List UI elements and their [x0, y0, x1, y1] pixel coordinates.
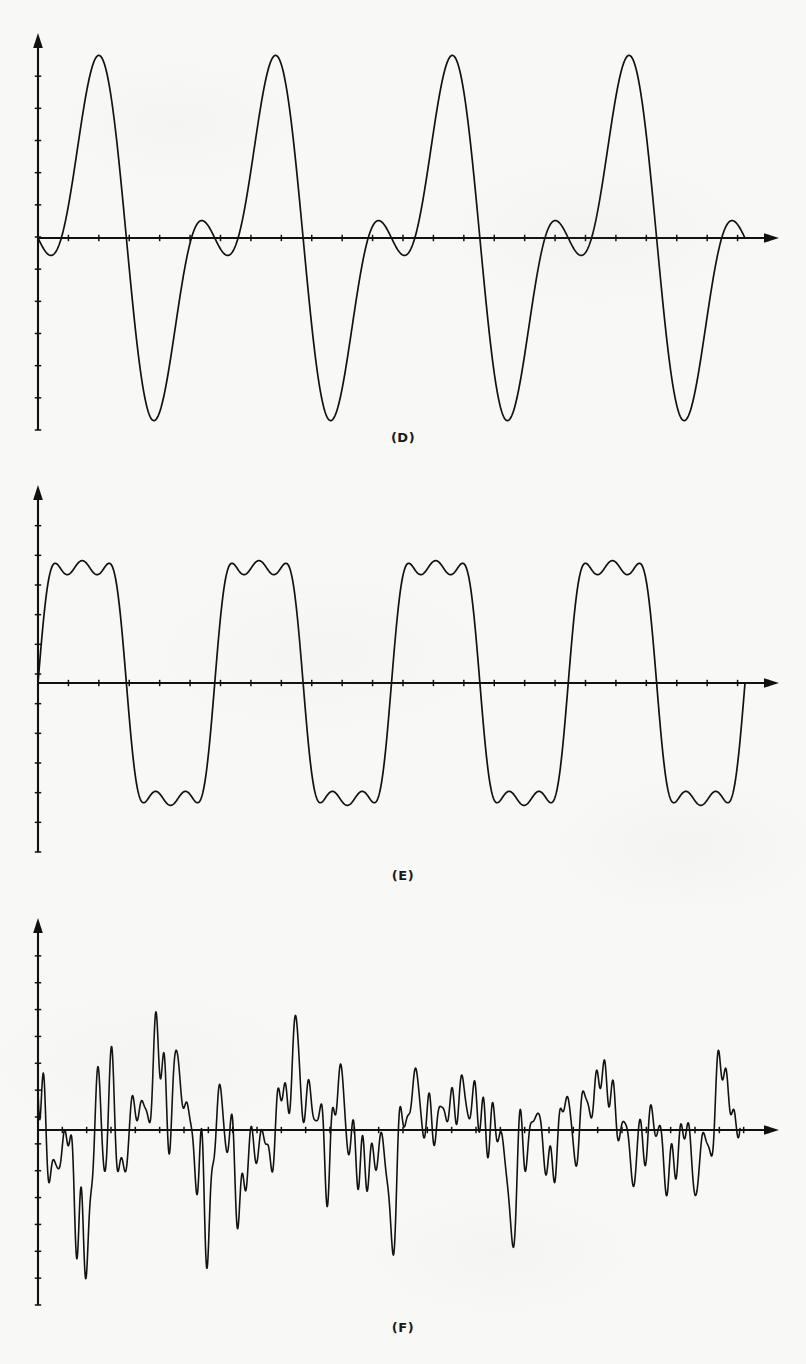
- y-axis-arrowhead-e: [33, 485, 43, 500]
- panel-e-plot: [0, 470, 806, 880]
- panel-d-plot: [0, 0, 806, 440]
- panel-d: (D): [0, 0, 806, 470]
- panel-f: (F): [0, 905, 806, 1364]
- x-axis-arrowhead-e: [764, 678, 779, 688]
- panel-e-axes: [33, 485, 779, 852]
- x-axis-arrowhead-d: [764, 233, 779, 243]
- panel-e: (E): [0, 470, 806, 915]
- y-axis-arrowhead-d: [33, 33, 43, 48]
- panel-label-e: (E): [0, 868, 806, 883]
- axis-ticks-e: [35, 496, 768, 852]
- panel-f-axes: [33, 918, 779, 1305]
- panel-f-plot: [0, 905, 806, 1330]
- y-axis-arrowhead-f: [33, 918, 43, 933]
- panel-d-axes: [33, 33, 779, 430]
- scanned-page: (D) (E) (F): [0, 0, 806, 1364]
- panel-label-f: (F): [0, 1320, 806, 1335]
- waveform-curve-f: [38, 1012, 740, 1279]
- x-axis-arrowhead-f: [764, 1125, 779, 1135]
- panel-label-d: (D): [0, 430, 806, 445]
